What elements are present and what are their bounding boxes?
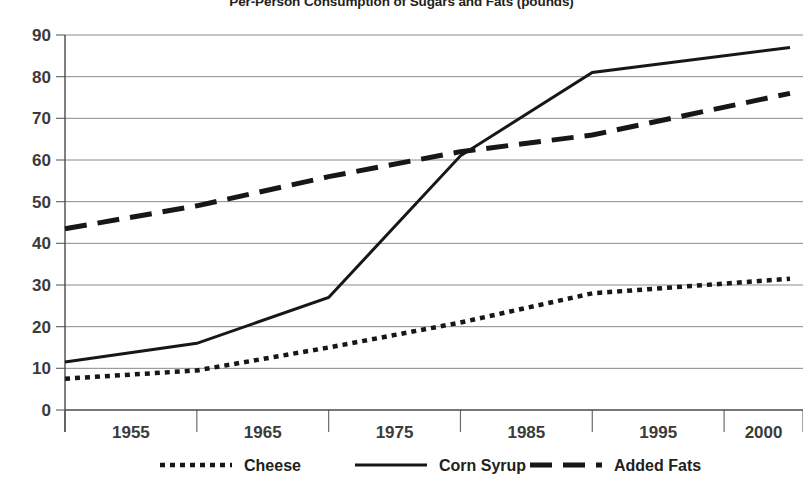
legend-label-corn-syrup: Corn Syrup — [439, 457, 526, 474]
x-axis-ticks-group — [65, 410, 803, 432]
y-axis-tick-label: 30 — [32, 276, 51, 295]
data-series-group — [65, 48, 790, 379]
series-line-added-fats — [65, 93, 790, 228]
y-axis-tick-label: 40 — [32, 234, 51, 253]
x-axis-tick-label: 1975 — [376, 423, 414, 442]
x-axis-tick-label: 1955 — [112, 423, 150, 442]
x-axis-tick-label: 1965 — [244, 423, 282, 442]
line-chart-plot: 0102030405060708090 19551965197519851995… — [0, 0, 803, 478]
y-axis-tick-label: 10 — [32, 359, 51, 378]
x-axis-tick-label: 1995 — [639, 423, 677, 442]
legend-label-cheese: Cheese — [244, 457, 301, 474]
y-axis-tick-label: 60 — [32, 151, 51, 170]
series-line-cheese — [65, 279, 790, 379]
y-axis-tick-label: 70 — [32, 109, 51, 128]
series-line-corn-syrup — [65, 48, 790, 363]
y-axis-tick-label: 90 — [32, 26, 51, 45]
y-axis-ticks-group — [56, 35, 65, 410]
y-axis-tick-label: 80 — [32, 68, 51, 87]
chart-legend: CheeseCorn SyrupAdded Fats — [160, 457, 701, 474]
chart-container: Per-Person Consumption of Sugars and Fat… — [0, 0, 803, 478]
x-axis-tick-label: 1985 — [507, 423, 545, 442]
legend-label-added-fats: Added Fats — [614, 457, 701, 474]
x-axis-tick-label: 2000 — [745, 423, 783, 442]
y-axis-tick-label: 0 — [42, 401, 51, 420]
y-axis-labels-group: 0102030405060708090 — [32, 26, 51, 420]
y-axis-tick-label: 20 — [32, 318, 51, 337]
x-axis-labels-group: 195519651975198519952000 — [112, 423, 782, 442]
y-axis-tick-label: 50 — [32, 193, 51, 212]
gridlines-group — [65, 35, 803, 368]
